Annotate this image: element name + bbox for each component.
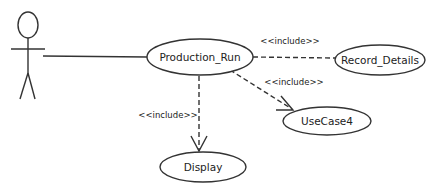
arrowhead-icon [276,96,293,110]
use-case-label: Record_Details [341,54,419,67]
include-stereotype-label: <<include>> [260,36,319,46]
include-line [230,70,292,109]
actor-right-leg [28,73,35,99]
use-case-usecase4[interactable]: UseCase4 [283,107,371,135]
include-relationship-record-details[interactable]: <<include>> [253,36,335,58]
include-stereotype-label: <<include>> [138,110,197,120]
use-case-label: UseCase4 [301,115,353,127]
actor-left-leg [20,73,28,99]
include-relationship-usecase4[interactable]: <<include>> [230,70,324,110]
use-case-label: Display [184,161,223,173]
use-case-record-details[interactable]: Record_Details [335,45,425,75]
association-line[interactable] [43,56,147,57]
use-case-production-run[interactable]: Production_Run [147,39,253,75]
actor-head [18,12,38,38]
use-case-diagram: <<include>> <<include>> <<include>> Prod… [0,0,435,193]
actor-icon[interactable] [11,12,45,99]
include-stereotype-label: <<include>> [264,77,323,87]
use-case-display[interactable]: Display [160,152,246,182]
include-relationship-display[interactable]: <<include>> [138,76,207,151]
include-line [253,57,335,58]
use-case-label: Production_Run [159,51,240,64]
